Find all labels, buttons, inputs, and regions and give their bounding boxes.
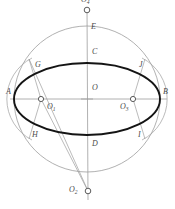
label-point-a: A xyxy=(6,88,11,96)
label-point-h: H xyxy=(32,131,38,139)
vertical-axis xyxy=(87,8,88,200)
label-point-o1: O1 xyxy=(47,103,56,111)
geometry-figure: A B C D E G H I J O O1 O2 O3 O4 xyxy=(0,0,175,209)
label-point-i: I xyxy=(138,131,141,139)
label-point-o3-letter: O xyxy=(120,102,126,111)
label-point-o2-letter: O xyxy=(69,185,75,194)
marker-o4-pole-top xyxy=(84,7,90,13)
marker-o3 xyxy=(130,96,135,101)
label-point-e: E xyxy=(91,23,96,31)
label-point-o1-sub: 1 xyxy=(53,106,56,112)
label-point-o4: O4 xyxy=(81,0,90,4)
label-point-c: C xyxy=(92,48,97,56)
label-point-d: D xyxy=(92,140,98,148)
label-point-b: B xyxy=(163,88,168,96)
label-point-o3-sub: 3 xyxy=(126,106,129,112)
figure-canvas xyxy=(0,0,175,209)
line-o1-to-o2 xyxy=(41,99,88,191)
marker-o2-pole-bottom xyxy=(85,188,91,194)
marker-o1 xyxy=(38,96,43,101)
label-point-j: J xyxy=(139,61,143,69)
label-point-o4-letter: O xyxy=(81,0,87,4)
label-point-o: O xyxy=(92,84,98,92)
label-point-o4-sub: 4 xyxy=(87,0,90,5)
label-point-o2: O2 xyxy=(69,186,78,194)
label-point-o1-letter: O xyxy=(47,102,53,111)
label-point-g: G xyxy=(35,61,41,69)
label-point-o2-sub: 2 xyxy=(75,189,78,195)
label-point-o3: O3 xyxy=(120,103,129,111)
